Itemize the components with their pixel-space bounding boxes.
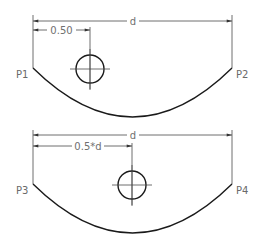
point-label-right: P2 [236, 69, 248, 80]
overall-dimension: d [33, 130, 232, 141]
bottom-arc [33, 184, 232, 233]
figure-2: d 0.5*d P3 P4 [16, 130, 248, 234]
hole-offset-label: 0.50 [50, 25, 72, 36]
hole-offset-label: 0.5*d [74, 141, 101, 152]
hole-offset-dimension: 0.5*d [33, 141, 132, 152]
overall-dimension-label: d [130, 130, 136, 141]
hole [70, 49, 110, 89]
hole [112, 165, 152, 205]
point-label-right: P4 [236, 185, 248, 196]
drawing-canvas: d 0.50 P1 P2 d [0, 0, 263, 245]
hole-offset-dimension: 0.50 [33, 25, 90, 36]
bottom-arc [33, 68, 232, 117]
point-label-left: P3 [16, 185, 28, 196]
figure-1: d 0.50 P1 P2 [16, 15, 248, 117]
overall-dimension-label: d [130, 16, 136, 27]
point-label-left: P1 [16, 69, 28, 80]
